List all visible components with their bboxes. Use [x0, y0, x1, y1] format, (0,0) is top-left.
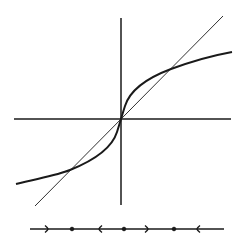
fixed-point-dot: [172, 227, 176, 231]
s-curve: [16, 52, 232, 184]
identity-line: [35, 16, 223, 206]
phase-line: [30, 226, 224, 233]
phase-diagram: [0, 0, 243, 246]
fixed-point-dot: [70, 227, 74, 231]
fixed-point-dot: [122, 227, 126, 231]
